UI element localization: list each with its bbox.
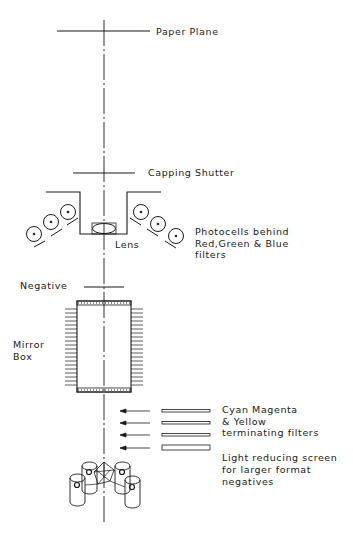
lamp-assembly: [70, 462, 140, 508]
filters-label-line-1: Cyan Magenta: [222, 404, 298, 416]
mirror-box-label-line-1: Mirror: [13, 339, 45, 351]
mirror-box-hatching-right: [131, 309, 143, 385]
cyan-filter: [162, 410, 210, 413]
screen-label-line-1: Light reducing screen: [222, 452, 337, 464]
photocells-left: [27, 205, 79, 248]
mirror-box-label-line-2: Box: [13, 351, 32, 363]
lens-label: Lens: [115, 239, 139, 251]
paper-plane-label: Paper Plane: [156, 26, 219, 38]
filters-label-line-3: terminating filters: [222, 427, 319, 439]
capping-shutter-label: Capping Shutter: [148, 167, 235, 179]
screen-label-line-2: for larger format: [222, 464, 311, 476]
negative-label: Negative: [20, 280, 67, 292]
terminating-filters: [162, 410, 210, 437]
filter-insertion-arrows: [120, 409, 150, 450]
light-reducing-screen: [162, 445, 210, 450]
yellow-filter: [162, 434, 210, 437]
lens-housing: [46, 192, 161, 234]
screen-label-line-3: negatives: [222, 476, 274, 488]
photocells-label-line-1: Photocells behind: [195, 226, 289, 238]
mirror-box-hatching-left: [65, 309, 77, 385]
photocells-label-line-3: filters: [195, 249, 226, 261]
magenta-filter: [162, 422, 210, 425]
